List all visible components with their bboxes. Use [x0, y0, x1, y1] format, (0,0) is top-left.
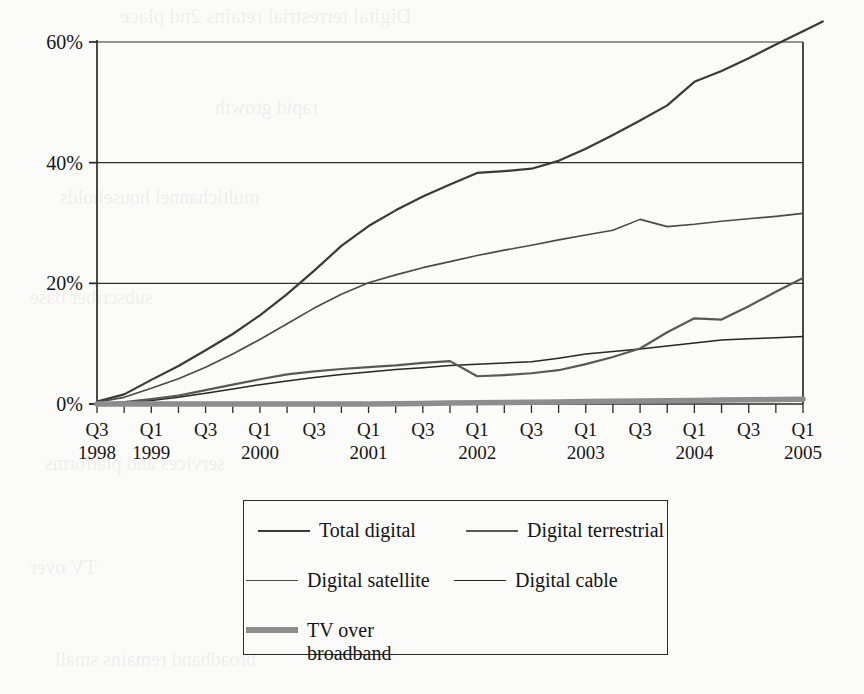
series-line-digital-cable [97, 336, 803, 404]
x-axis-year-label: 2003 [567, 442, 605, 463]
y-axis-label: 0% [56, 393, 83, 415]
legend-label: Digital terrestrial [527, 519, 664, 542]
series-line-digital-terrestrial [97, 278, 803, 404]
x-axis-quarter-label: Q1 [791, 419, 814, 440]
x-axis-quarter-label: Q3 [737, 419, 760, 440]
x-axis-quarter-label: Q3 [411, 419, 434, 440]
x-axis-year-label: 2001 [350, 442, 388, 463]
x-axis-quarter-label: Q3 [628, 419, 651, 440]
legend-item[interactable]: Digital cable [454, 569, 618, 592]
legend-item[interactable]: TV over broadband [246, 619, 391, 665]
x-axis-quarter-label: Q3 [194, 419, 217, 440]
line-chart: 60%40%20%0% Q31998Q11999Q3Q12000Q3Q12001… [0, 0, 864, 694]
y-axis-label: 60% [46, 31, 83, 53]
legend-item[interactable]: Digital satellite [246, 569, 430, 592]
x-axis-quarter-label: Q3 [85, 419, 108, 440]
legend-swatch-icon [466, 530, 518, 532]
x-axis-quarter-label: Q1 [683, 419, 706, 440]
x-axis-year-label: 2002 [458, 442, 496, 463]
chart-legend: Total digitalDigital terrestrialDigital … [243, 500, 668, 655]
series-line-digital-satellite [97, 213, 803, 402]
x-axis-quarter-label: Q3 [303, 419, 326, 440]
y-axis-label: 40% [46, 152, 83, 174]
x-axis-quarter-label: Q1 [248, 419, 271, 440]
x-axis-quarter-label: Q1 [466, 419, 489, 440]
x-axis-year-label: 2004 [675, 442, 714, 463]
x-axis-year-label: 2005 [784, 442, 822, 463]
legend-label: Digital satellite [307, 569, 430, 592]
x-axis-year-label: 1998 [78, 442, 116, 463]
x-axis-quarter-label: Q3 [520, 419, 543, 440]
legend-item[interactable]: Total digital [258, 519, 416, 542]
legend-swatch-icon [258, 530, 310, 532]
x-axis-quarter-label: Q1 [357, 419, 380, 440]
x-axis-quarter-label: Q1 [140, 419, 163, 440]
gridlines [97, 42, 803, 283]
legend-item[interactable]: Digital terrestrial [466, 519, 664, 542]
y-axis-labels: 60%40%20%0% [46, 31, 83, 415]
x-axis-year-label: 2000 [241, 442, 279, 463]
legend-label: TV over broadband [307, 619, 391, 665]
legend-swatch-icon [454, 580, 506, 581]
legend-label: Total digital [319, 519, 416, 542]
y-axis-label: 20% [46, 272, 83, 294]
x-axis-quarter-label: Q1 [574, 419, 597, 440]
legend-swatch-icon [246, 627, 298, 633]
series-line-total-digital [97, 31, 803, 401]
legend-label: Digital cable [515, 569, 618, 592]
plot-frame [89, 40, 803, 404]
series-overshoot-total-digital [803, 21, 823, 31]
x-axis-year-label: 1999 [132, 442, 170, 463]
legend-swatch-icon [246, 580, 298, 581]
x-axis-labels: Q31998Q11999Q3Q12000Q3Q12001Q3Q12002Q3Q1… [78, 419, 822, 463]
data-series-group [97, 21, 823, 404]
